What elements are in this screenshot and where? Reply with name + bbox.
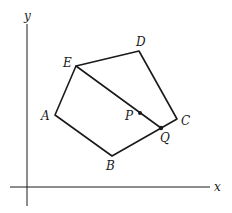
point-Q-dot bbox=[159, 126, 163, 130]
vertex-label-C: C bbox=[181, 114, 190, 128]
x-axis-label: x bbox=[214, 180, 221, 194]
y-axis-label: y bbox=[23, 9, 31, 23]
segment-EQ bbox=[76, 66, 161, 128]
vertex-label-E: E bbox=[62, 56, 72, 70]
pentagon-ABCDE bbox=[55, 51, 177, 156]
vertex-label-B: B bbox=[105, 159, 115, 173]
point-P-dot bbox=[138, 111, 142, 115]
point-label-P: P bbox=[124, 109, 134, 123]
vertex-label-D: D bbox=[135, 35, 146, 49]
diagram-canvas: y x E D C A B P Q bbox=[0, 0, 232, 213]
point-label-Q: Q bbox=[160, 131, 170, 145]
vertex-label-A: A bbox=[40, 109, 50, 123]
